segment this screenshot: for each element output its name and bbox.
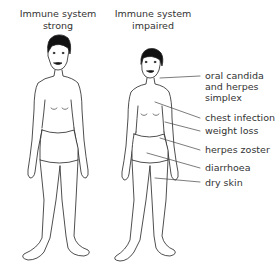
label-diarrhoea: diarrhoea	[205, 162, 250, 173]
label-oral-candida-line3: simplex	[205, 92, 264, 103]
label-chest-infection-text: chest infection	[205, 112, 275, 123]
label-weight-loss: weight loss	[205, 125, 258, 136]
label-oral-candida-line1: oral candida	[205, 70, 264, 81]
label-herpes-zoster-text: herpes zoster	[205, 144, 270, 155]
leader-lines	[147, 76, 200, 182]
label-herpes-zoster: herpes zoster	[205, 144, 270, 155]
figures-illustration	[0, 0, 280, 272]
figure-strong	[23, 35, 90, 260]
label-dry-skin-text: dry skin	[205, 177, 243, 188]
label-chest-infection: chest infection	[205, 112, 275, 123]
label-weight-loss-text: weight loss	[205, 125, 258, 136]
label-oral-candida-line2: and herpes	[205, 81, 264, 92]
label-diarrhoea-text: diarrhoea	[205, 162, 250, 173]
label-oral-candida: oral candida and herpes simplex	[205, 70, 264, 103]
figure-impaired	[115, 49, 179, 262]
label-dry-skin: dry skin	[205, 177, 243, 188]
